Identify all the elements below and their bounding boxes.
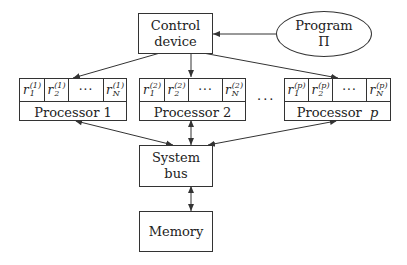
program-label: Program xyxy=(295,18,352,34)
memory-label: Memory xyxy=(149,224,204,240)
register-rN: r(2)N xyxy=(223,79,245,101)
register-r1: r(p)1 xyxy=(285,79,309,101)
register-rN: r(1)N xyxy=(104,79,126,101)
system-bus-box: System bus xyxy=(139,145,213,187)
register-r1: r(1)1 xyxy=(20,79,45,101)
processor-2: r(2)1 r(2)2 ··· r(2)N Processor 2 xyxy=(139,78,246,121)
processor-p: r(p)1 r(p)2 ··· r(p)N Processor p xyxy=(284,78,391,121)
processor-2-label: Processor 2 xyxy=(140,102,245,122)
control-device-box: Control device xyxy=(138,13,213,54)
register-r2: r(1)2 xyxy=(45,79,69,101)
register-rN: r(p)N xyxy=(367,79,390,101)
register-r1: r(2)1 xyxy=(140,79,165,101)
system-bus-label: System bus xyxy=(140,150,212,182)
memory-box: Memory xyxy=(139,211,213,252)
more-processors-ellipsis: ··· xyxy=(257,92,275,107)
register-ellipsis: ··· xyxy=(189,79,223,101)
register-row: r(1)1 r(1)2 ··· r(1)N xyxy=(20,79,126,102)
processor-p-label: Processor p xyxy=(285,102,390,122)
register-ellipsis: ··· xyxy=(333,79,367,101)
register-row: r(2)1 r(2)2 ··· r(2)N xyxy=(140,79,245,102)
processor-1-label: Processor 1 xyxy=(20,102,126,122)
program-symbol: Π xyxy=(318,34,329,50)
register-ellipsis: ··· xyxy=(69,79,104,101)
register-r2: r(p)2 xyxy=(309,79,333,101)
program-ellipse: Program Π xyxy=(276,11,372,57)
control-device-label-line1: Control xyxy=(151,18,201,34)
processor-1: r(1)1 r(1)2 ··· r(1)N Processor 1 xyxy=(19,78,127,121)
control-device-label-line2: device xyxy=(154,34,197,50)
register-row: r(p)1 r(p)2 ··· r(p)N xyxy=(285,79,390,102)
register-r2: r(2)2 xyxy=(165,79,189,101)
